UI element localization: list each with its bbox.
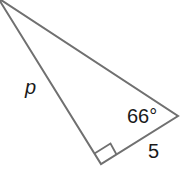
angle-label: 66° — [127, 105, 157, 127]
right-angle-marker — [95, 144, 117, 155]
triangle-diagram: p 66° 5 — [0, 0, 190, 191]
side-label-p: p — [24, 76, 36, 98]
side-label-5: 5 — [148, 140, 159, 162]
